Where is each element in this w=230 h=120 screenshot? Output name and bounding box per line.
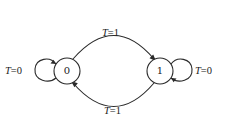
edge-label-right: T=0 — [195, 65, 212, 76]
edge-label-bottom-value: 1 — [116, 105, 121, 116]
edge-label-left-value: 0 — [17, 65, 22, 76]
loop-arc-right — [171, 59, 192, 81]
edge-label-left: T=0 — [5, 65, 22, 76]
state-0-label: 0 — [64, 65, 70, 76]
edge-label-bottom: T=1 — [104, 105, 121, 116]
state-0: 0 — [54, 58, 80, 84]
t-flipflop-state-diagram: T=1 T=1 T=0 T=0 0 1 — [0, 0, 230, 120]
self-loop-state-1: T=0 — [171, 59, 212, 82]
transition-1-to-0: T=1 — [71, 81, 154, 116]
edge-label-right-value: 0 — [207, 65, 212, 76]
edge-label-top-value: 1 — [114, 27, 119, 38]
state-1-label: 1 — [157, 65, 163, 76]
edge-bottom-arc — [73, 83, 154, 107]
edge-label-top: T=1 — [102, 27, 119, 38]
edge-top-arc — [73, 36, 154, 60]
state-1: 1 — [147, 58, 173, 84]
self-loop-state-0: T=0 — [5, 59, 56, 81]
transition-0-to-1: T=1 — [73, 27, 156, 62]
